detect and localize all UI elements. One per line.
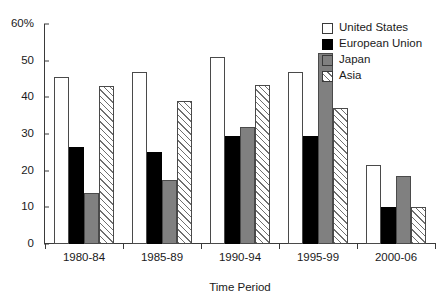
bar-european-union xyxy=(225,136,240,244)
y-tick-mark xyxy=(44,170,49,171)
bar-united-states xyxy=(366,165,381,244)
x-axis-labels: 1980-841985-891990-941995-992000-06 xyxy=(45,251,435,264)
x-tick-mark xyxy=(435,244,436,249)
y-tick-mark xyxy=(44,97,49,98)
bar-united-states xyxy=(132,72,147,244)
gray-swatch xyxy=(322,55,333,66)
bar-group xyxy=(201,24,279,244)
white-outline-swatch xyxy=(322,23,333,34)
x-tick-mark xyxy=(123,244,124,249)
legend-label: Japan xyxy=(339,54,370,66)
bar-european-union xyxy=(303,136,318,244)
x-tick-mark xyxy=(201,244,202,249)
bar-european-union xyxy=(147,152,162,244)
bar-european-union xyxy=(69,147,84,244)
bar-asia xyxy=(333,108,348,244)
x-tick-label: 1985-89 xyxy=(123,251,201,264)
bar-chart: 0102030405060% 1980-841985-891990-941995… xyxy=(0,0,448,306)
bar-asia xyxy=(411,207,426,244)
bar-japan xyxy=(162,180,177,244)
legend-item: United States xyxy=(322,21,422,35)
y-tick-mark xyxy=(44,134,49,135)
x-axis-title: Time Period xyxy=(45,281,435,293)
bar-united-states xyxy=(288,72,303,244)
bar-asia xyxy=(99,86,114,244)
bar-asia xyxy=(177,101,192,244)
x-tick-mark xyxy=(45,244,46,249)
hatched-swatch xyxy=(322,71,333,82)
legend-label: Asia xyxy=(339,70,361,82)
y-tick-label: 50 xyxy=(21,55,34,67)
legend-label: United States xyxy=(339,22,408,34)
x-tick-label: 1980-84 xyxy=(45,251,123,264)
y-tick-mark xyxy=(44,60,49,61)
y-tick-mark xyxy=(44,207,49,208)
y-tick-label: 0 xyxy=(28,238,34,250)
y-tick-label: 10 xyxy=(21,202,34,214)
y-tick-label: 60% xyxy=(11,18,34,30)
bar-asia xyxy=(255,85,270,245)
y-tick-label: 40 xyxy=(21,92,34,104)
x-tick-mark xyxy=(279,244,280,249)
legend-label: European Union xyxy=(339,38,422,50)
bar-japan xyxy=(240,127,255,244)
y-tick-mark xyxy=(44,24,49,25)
x-tick-label: 2000-06 xyxy=(357,251,435,264)
solid-black-swatch xyxy=(322,39,333,50)
bar-japan xyxy=(84,193,99,244)
y-tick-mark xyxy=(44,244,49,245)
x-tick-mark xyxy=(357,244,358,249)
legend-item: European Union xyxy=(322,37,422,51)
x-tick-label: 1990-94 xyxy=(201,251,279,264)
y-tick-label: 20 xyxy=(21,165,34,177)
x-axis-ticks xyxy=(45,244,435,250)
x-tick-label: 1995-99 xyxy=(279,251,357,264)
bar-european-union xyxy=(381,207,396,244)
chart-legend: United StatesEuropean UnionJapanAsia xyxy=(322,21,422,83)
bar-group xyxy=(45,24,123,244)
y-tick-label: 30 xyxy=(21,128,34,140)
bar-group xyxy=(123,24,201,244)
bar-united-states xyxy=(210,57,225,244)
y-axis: 0102030405060% xyxy=(0,24,40,244)
legend-item: Japan xyxy=(322,53,422,67)
bar-united-states xyxy=(54,77,69,244)
bar-japan xyxy=(396,176,411,244)
legend-item: Asia xyxy=(322,69,422,83)
